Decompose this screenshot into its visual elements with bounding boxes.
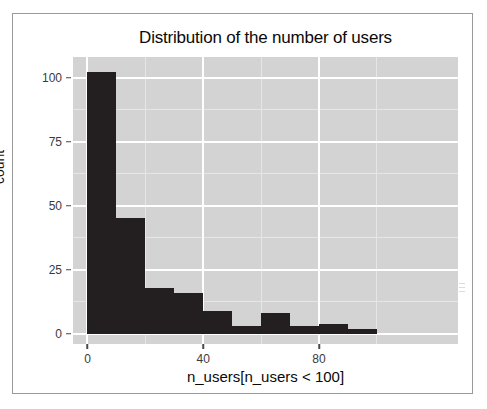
histogram-bar xyxy=(145,288,174,334)
chart-title: Distribution of the number of users xyxy=(73,28,458,48)
gridline-vertical-major xyxy=(318,57,320,344)
histogram-bar xyxy=(87,72,116,333)
gridline-horizontal-major xyxy=(73,141,458,143)
gridline-horizontal-major xyxy=(73,205,458,207)
y-axis-title: count xyxy=(0,150,7,184)
y-axis-tick-label: 100 xyxy=(42,71,62,85)
histogram-bar xyxy=(348,329,377,334)
y-axis-tick-label: 25 xyxy=(49,263,62,277)
gridline-horizontal-major xyxy=(73,77,458,79)
chart-canvas: Distribution of the number of users 0255… xyxy=(0,0,487,409)
histogram-bar xyxy=(319,324,348,334)
y-axis-tick-label: 75 xyxy=(49,135,62,149)
x-axis-tick-mark xyxy=(203,344,205,349)
y-axis-tick-labels: 0255075100 xyxy=(30,0,62,409)
y-axis-tick-marks xyxy=(66,0,72,409)
histogram-bar xyxy=(174,293,203,334)
y-axis-tick-label: 0 xyxy=(55,327,62,341)
gridline-vertical-minor xyxy=(261,57,262,344)
gridline-horizontal-minor xyxy=(73,173,458,174)
x-axis-tick-label: 80 xyxy=(312,352,325,366)
histogram-bar xyxy=(203,311,232,334)
y-axis-tick-mark xyxy=(66,333,71,335)
scan-speckle-artifact-icon xyxy=(459,281,465,295)
histogram-bar xyxy=(232,326,261,334)
histogram-bar xyxy=(290,326,319,334)
gridline-vertical-minor xyxy=(376,57,377,344)
plot-panel xyxy=(73,57,458,344)
x-axis-tick-label: 0 xyxy=(84,352,91,366)
y-axis-tick-mark xyxy=(66,269,71,271)
y-axis-tick-mark xyxy=(66,205,71,207)
y-axis-tick-label: 50 xyxy=(49,199,62,213)
x-axis-tick-mark xyxy=(87,344,89,349)
x-axis-tick-mark xyxy=(318,344,320,349)
x-axis-tick-label: 40 xyxy=(197,352,210,366)
y-axis-tick-mark xyxy=(66,77,71,79)
histogram-bar xyxy=(261,313,290,334)
histogram-bar xyxy=(116,218,145,333)
x-axis-title: n_users[n_users < 100] xyxy=(73,368,458,385)
y-axis-tick-mark xyxy=(66,141,71,143)
gridline-horizontal-minor xyxy=(73,109,458,110)
